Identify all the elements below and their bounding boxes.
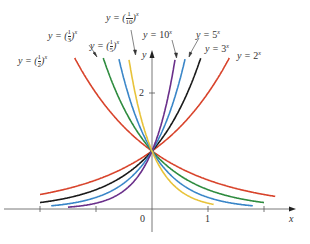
- curves: [40, 58, 275, 207]
- curve-y-1-5-x: [119, 59, 253, 206]
- label-5-pow-x: y = 5x: [196, 29, 220, 40]
- x-axis-arrow-icon: [289, 207, 296, 212]
- x-tick-label-1: 1: [205, 214, 210, 224]
- y-axis-arrow-icon: [150, 50, 155, 58]
- label-3-pow-x: y = 3x: [205, 43, 229, 54]
- y-tick-label-2: 2: [139, 88, 144, 98]
- origin-label: 0: [140, 214, 145, 224]
- label-2-pow-x: y = 2x: [237, 50, 261, 61]
- label-half-pow-x: y = (12)x: [18, 54, 47, 69]
- label-tenth-pow-x: y = (110)x: [106, 11, 139, 26]
- x-axis-label: x: [289, 214, 293, 224]
- label-fifth-pow-x: y = (15)x: [90, 39, 119, 54]
- label-third-pow-x: y = (13)x: [48, 29, 77, 44]
- exponential-functions-chart: 0 1 2 x y y = 2x y = 3x y = 5x y = 10x y…: [0, 0, 310, 244]
- axes: [4, 50, 296, 232]
- curve-y-5-x: [51, 59, 185, 206]
- label-10-pow-x: y = 10x: [143, 29, 172, 40]
- y-axis-label: y: [142, 50, 146, 60]
- curve-y-1-2-x: [75, 58, 276, 196]
